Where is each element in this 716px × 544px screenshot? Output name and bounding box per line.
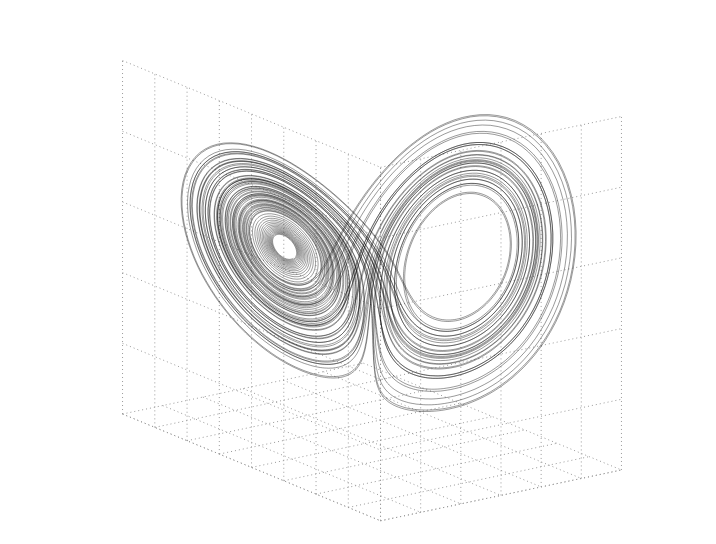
grid-line xyxy=(252,417,493,468)
plot-area xyxy=(0,0,716,544)
grid-line xyxy=(381,329,622,380)
grid-line xyxy=(163,406,421,513)
floor-grid xyxy=(123,363,622,521)
grid-line xyxy=(316,443,557,494)
lorenz-attractor-figure: Lorenz attractor trajectory (butterfly) … xyxy=(0,0,716,544)
attractor-trajectory-line xyxy=(181,115,576,412)
grid-line xyxy=(155,377,396,428)
grid-line xyxy=(203,397,461,504)
grid-line xyxy=(284,430,525,481)
grid-line xyxy=(187,390,428,441)
